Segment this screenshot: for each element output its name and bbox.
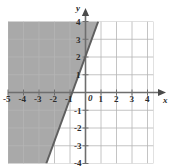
plot-canvas [0,0,173,168]
y-tick-label-3: 3 [76,36,81,45]
y-tick-label--1: -1 [74,107,82,116]
x-tick-label--4: -4 [19,95,27,104]
x-tick-label-4: 4 [145,95,150,104]
x-tick-label-3: 3 [130,95,135,104]
x-tick-label--3: -3 [34,95,42,104]
y-tick-label--2: -2 [74,124,82,133]
y-tick-label--4: -4 [74,159,82,168]
coordinate-graph: -5 -4 -3 -2 -1 1 2 3 4 4 3 2 1 -1 -2 -3 … [0,0,173,168]
y-axis-name: y [76,4,80,13]
x-tick-label-1: 1 [99,95,104,104]
x-tick-label--5: -5 [3,95,11,104]
y-tick-label-2: 2 [76,53,81,62]
x-tick-label-2: 2 [114,95,119,104]
x-tick-label--2: -2 [50,95,58,104]
x-tick-label--1: -1 [65,95,73,104]
x-axis-name: x [163,96,168,105]
y-tick-label-1: 1 [76,71,81,80]
origin-label: 0 [88,94,93,103]
y-tick-label-4: 4 [76,18,81,27]
y-tick-label--3: -3 [74,142,82,151]
